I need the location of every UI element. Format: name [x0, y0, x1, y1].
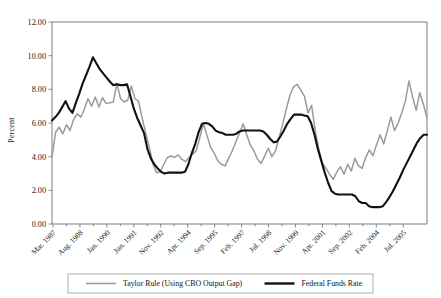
- legend-label: Federal Funds Rate: [302, 279, 363, 288]
- y-tick-label: 4.00: [32, 153, 46, 162]
- chart-legend: Taylor Rule (Using CBO Output Gap)Federa…: [68, 274, 373, 293]
- y-tick-label: 0.00: [32, 220, 46, 229]
- taylor-rule-line-chart: 0.002.004.006.008.0010.0012.00 Mar. 1987…: [0, 0, 441, 298]
- y-tick-label: 10.00: [28, 52, 46, 61]
- y-tick-label: 2.00: [32, 186, 46, 195]
- y-tick-label: 12.00: [28, 18, 46, 27]
- y-axis-title: Percent: [7, 117, 16, 143]
- legend-label: Taylor Rule (Using CBO Output Gap): [123, 279, 243, 288]
- y-tick-label: 8.00: [32, 85, 46, 94]
- y-tick-label: 6.00: [32, 119, 46, 128]
- chart-figure: 0.002.004.006.008.0010.0012.00 Mar. 1987…: [0, 0, 441, 298]
